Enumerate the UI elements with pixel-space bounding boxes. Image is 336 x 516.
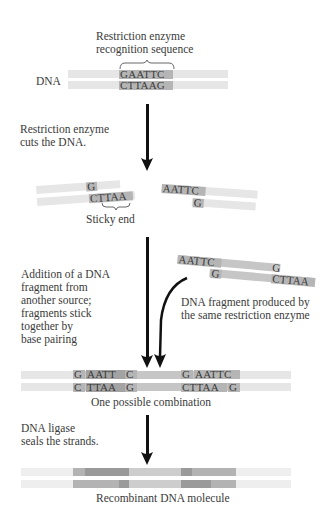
step2-label-line4: fragments stick [21,307,92,320]
arrow-down-icon [141,158,153,172]
fragment-label-line1: DNA fragment produced by [181,296,310,309]
recombinant-seg [73,468,85,476]
recombinant-seg [192,468,236,476]
sticky-end-label: Sticky end [86,213,135,226]
recombinant-seg [73,480,119,488]
curved-arrow-icon [155,275,195,370]
combo-top-seq-3: C [125,370,137,379]
recognition-label-line2: recognition sequence [96,43,193,56]
combo-bottom-seq-5: G [228,383,240,392]
combo-bottom-seq-1: C [73,383,85,392]
combo-bottom-seq-2: TTAA [86,383,126,392]
fragment-label-line2: the same restriction enzyme [181,309,310,322]
step1-label-line2: cuts the DNA. [20,136,86,149]
fragment-right-bottom-seq: CTTAA [271,274,316,287]
recognition-seq-top: GAATTC [119,70,173,79]
arrow-3-shaft [146,415,149,457]
step3-label-line2: seals the strands. [21,435,99,448]
step2-label-line6: base pairing [21,333,77,346]
sticky-end-brace-icon [101,203,131,211]
recombinant-seg [119,480,129,488]
step1-label-line1: Restriction enzyme [20,123,109,136]
cut-left-top-seq: G [86,182,98,192]
fragment-left-bottom-seq: G [210,269,222,279]
recognition-label-line1: Restriction enzyme [96,30,185,43]
step2-label-line2: fragment from [21,281,88,294]
step2-label-line1: Addition of a DNA [21,268,110,281]
recombinant-label: Recombinant DNA molecule [96,492,230,505]
recombinant-seg [211,480,236,488]
recombinant-seg [129,480,181,488]
fragment-left-top-seq: AATTC [177,255,222,268]
recombinant-seg [181,480,211,488]
step2-label-line5: together by [21,320,73,333]
arrow-down-icon [141,452,153,466]
step2-label-line3: another source; [21,294,92,307]
recombinant-seg [181,468,192,476]
dna-label: DNA [36,75,61,88]
combo-top-seq-4: G [181,370,193,379]
arrow-2-shaft [146,237,149,362]
combo-bottom-seq-3: G [125,383,137,392]
combo-bottom-seq-4: CTTAA [181,383,227,392]
combo-top-seq-5: AATTC [194,370,240,379]
combo-top-seq-2: AATT [86,370,126,379]
arrow-down-icon [141,355,153,369]
recombinant-seg [85,468,129,476]
arrow-1-shaft [146,104,149,160]
combination-label: One possible combination [91,396,211,409]
recombinant-seg [129,468,181,476]
cut-left-bottom-seq: CTTAA [89,191,134,203]
cut-right-bottom-seq: G [192,198,204,208]
cut-right-top-seq: AATTC [161,184,206,196]
recognition-seq-bottom: CTTAAG [119,81,173,90]
step3-label-line1: DNA ligase [21,422,75,435]
combo-top-seq-1: G [73,370,85,379]
